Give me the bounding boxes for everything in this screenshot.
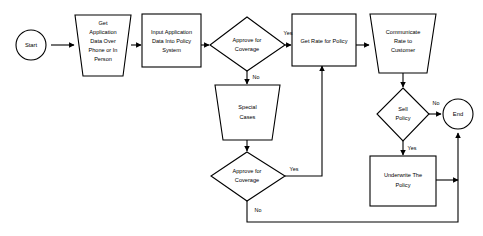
edge-approve2-yes-to-get-rate: [285, 66, 322, 176]
get-application-label-line4: Phone or In: [89, 47, 118, 53]
sell-policy-label-line2: Policy: [396, 115, 411, 121]
communicate-rate-label-line2: Rate to: [394, 38, 412, 44]
sell-policy-label-line1: Sell: [398, 106, 407, 112]
start-label: Start: [25, 42, 38, 48]
input-application-label-line1: Input Application: [151, 29, 192, 35]
approve-coverage-1-label-line1: Approve for: [233, 37, 262, 43]
input-application-label-line3: System: [162, 47, 181, 53]
approve-coverage-2-label-line1: Approve for: [233, 168, 262, 174]
edge-label-sell-no: No: [433, 100, 440, 106]
special-cases-trapezoid: [215, 85, 280, 140]
node-input-application-data[interactable]: Input Application Data Into Policy Syste…: [142, 14, 201, 67]
node-get-application-data[interactable]: Get Application Data Over Phone or In Pe…: [75, 15, 131, 76]
underwrite-label-line2: Policy: [396, 182, 411, 188]
special-cases-label-line2: Cases: [240, 114, 256, 120]
end-label: End: [453, 111, 463, 117]
communicate-rate-label-line1: Communicate: [386, 29, 421, 35]
special-cases-label-line1: Special: [238, 104, 256, 110]
get-application-label-line5: Person: [94, 56, 112, 62]
node-approve-coverage-1[interactable]: Approve for Coverage: [210, 17, 285, 71]
node-end[interactable]: End: [443, 99, 473, 129]
edge-label-approve2-yes: Yes: [290, 166, 299, 172]
edge-label-approve1-no: No: [253, 74, 260, 80]
get-application-label-line3: Data Over: [90, 38, 116, 44]
node-underwrite-policy[interactable]: Underwrite The Policy: [370, 156, 436, 206]
input-application-label-line2: Data Into Policy: [152, 38, 191, 44]
approve-coverage-2-label-line2: Coverage: [235, 177, 259, 183]
get-application-label-line1: Get: [98, 20, 107, 26]
approve-coverage-1-label-line2: Coverage: [235, 46, 259, 52]
underwrite-label-line1: Underwrite The: [384, 172, 422, 178]
communicate-rate-label-line3: Customer: [391, 47, 415, 53]
node-get-rate-for-policy[interactable]: Get Rate for Policy: [292, 14, 356, 66]
node-approve-coverage-2[interactable]: Approve for Coverage: [211, 152, 285, 201]
underwrite-rect: [370, 156, 436, 206]
node-special-cases[interactable]: Special Cases: [215, 85, 280, 140]
node-start[interactable]: Start: [16, 30, 46, 60]
flowchart-canvas: Start Get Application Data Over Phone or…: [0, 0, 483, 236]
get-application-label-line2: Application: [89, 29, 116, 35]
approve-coverage-1-diamond: [210, 17, 285, 71]
get-rate-label-line1: Get Rate for Policy: [301, 38, 348, 44]
flowchart-svg: Start Get Application Data Over Phone or…: [0, 0, 483, 236]
edge-label-sell-yes: Yes: [408, 145, 417, 151]
node-communicate-rate[interactable]: Communicate Rate to Customer: [370, 14, 436, 73]
node-sell-policy[interactable]: Sell Policy: [377, 88, 429, 141]
edge-label-approve2-no: No: [255, 207, 262, 213]
edge-label-approve1-yes: Yes: [284, 30, 293, 36]
